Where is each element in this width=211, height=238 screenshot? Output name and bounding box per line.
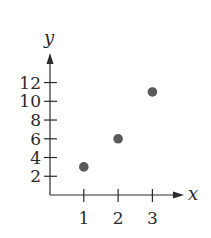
- x-axis-label: x: [188, 183, 198, 204]
- axes: y x: [43, 27, 198, 204]
- y-axis-arrow-icon: [47, 53, 54, 64]
- x-axis-arrow-icon: [173, 192, 184, 199]
- scatter-chart: y x 24681012 123: [0, 0, 211, 238]
- x-tick-label: 3: [147, 208, 158, 228]
- y-tick-label: 10: [19, 91, 41, 111]
- x-tick-label: 2: [113, 208, 124, 228]
- data-point: [148, 87, 158, 97]
- x-tick-label: 1: [78, 208, 89, 228]
- y-axis-label: y: [43, 27, 55, 48]
- y-tick-label: 2: [30, 166, 41, 186]
- y-tick-label: 12: [19, 73, 41, 93]
- y-tick-label: 6: [30, 129, 41, 149]
- y-tick-label: 8: [30, 110, 41, 130]
- data-point: [79, 162, 89, 172]
- data-point: [113, 134, 123, 144]
- y-ticks: 24681012: [19, 73, 57, 187]
- data-points: [79, 87, 157, 172]
- y-tick-label: 4: [30, 148, 41, 168]
